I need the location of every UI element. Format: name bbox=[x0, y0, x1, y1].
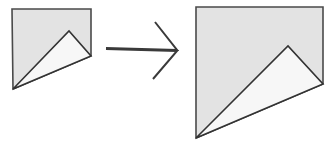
source-figure-group bbox=[12, 9, 91, 89]
transformation-diagram bbox=[0, 0, 332, 150]
figure-canvas bbox=[0, 0, 332, 150]
double-right-arrow-icon-lower bbox=[106, 49, 177, 79]
transformed-figure-group bbox=[196, 7, 323, 138]
double-right-arrow-icon-upper bbox=[106, 22, 177, 50]
transform-arrow-group bbox=[106, 22, 177, 79]
